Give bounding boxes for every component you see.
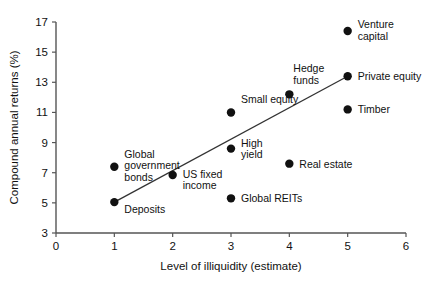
data-point-label: Small equity <box>241 93 299 105</box>
data-point-label: Deposits <box>124 203 165 215</box>
x-tick-label: 1 <box>111 240 117 252</box>
x-tick-label: 0 <box>53 240 59 252</box>
x-axis-title: Level of illiquidity (estimate) <box>160 260 301 272</box>
data-point-label: Real estate <box>299 158 352 170</box>
trend-line-group <box>114 76 347 202</box>
x-tick-label: 5 <box>344 240 350 252</box>
data-point-label: US fixedincome <box>183 168 223 192</box>
data-point-label: Venturecapital <box>358 18 394 41</box>
y-axis-ticks: 357911131517 <box>35 16 56 239</box>
y-tick-label: 3 <box>42 227 48 239</box>
data-point[interactable]: US fixed income <box>168 171 176 179</box>
y-tick-label: 15 <box>35 46 48 58</box>
y-tick-label: 17 <box>35 16 48 28</box>
y-tick-label: 7 <box>42 167 48 179</box>
x-tick-label: 2 <box>169 240 175 252</box>
trend-line <box>114 76 347 202</box>
data-point[interactable]: Global government bonds <box>110 162 118 170</box>
scatter-chart: 357911131517 0123456 DepositsGlobal gove… <box>0 0 440 289</box>
data-point[interactable]: High yield <box>227 144 235 152</box>
data-point[interactable]: Timber <box>343 105 351 113</box>
x-tick-label: 3 <box>228 240 234 252</box>
data-point-label: Private equity <box>358 70 422 82</box>
data-point[interactable]: Real estate <box>285 159 293 167</box>
y-tick-label: 13 <box>35 76 48 88</box>
chart-canvas: 357911131517 0123456 DepositsGlobal gove… <box>0 0 440 289</box>
x-axis-ticks: 0123456 <box>53 233 409 252</box>
y-tick-label: 11 <box>36 106 48 118</box>
x-tick-label: 4 <box>286 240 293 252</box>
x-tick-label: 6 <box>403 240 409 252</box>
data-point-label: Timber <box>358 103 391 115</box>
data-point[interactable]: Private equity <box>343 72 351 80</box>
data-point[interactable]: Deposits <box>110 198 118 206</box>
data-point-label: Hedgefunds <box>293 62 324 86</box>
data-point[interactable]: Global REITs <box>227 194 235 202</box>
data-point-label: Global REITs <box>241 192 302 204</box>
y-tick-label: 5 <box>42 197 48 209</box>
data-point[interactable]: Small equity <box>227 108 235 116</box>
data-point-label: Highyield <box>241 137 263 161</box>
data-point[interactable]: Venture capital <box>343 27 351 35</box>
y-tick-label: 9 <box>42 137 48 149</box>
y-axis-title: Compound annual returns (%) <box>8 50 20 204</box>
